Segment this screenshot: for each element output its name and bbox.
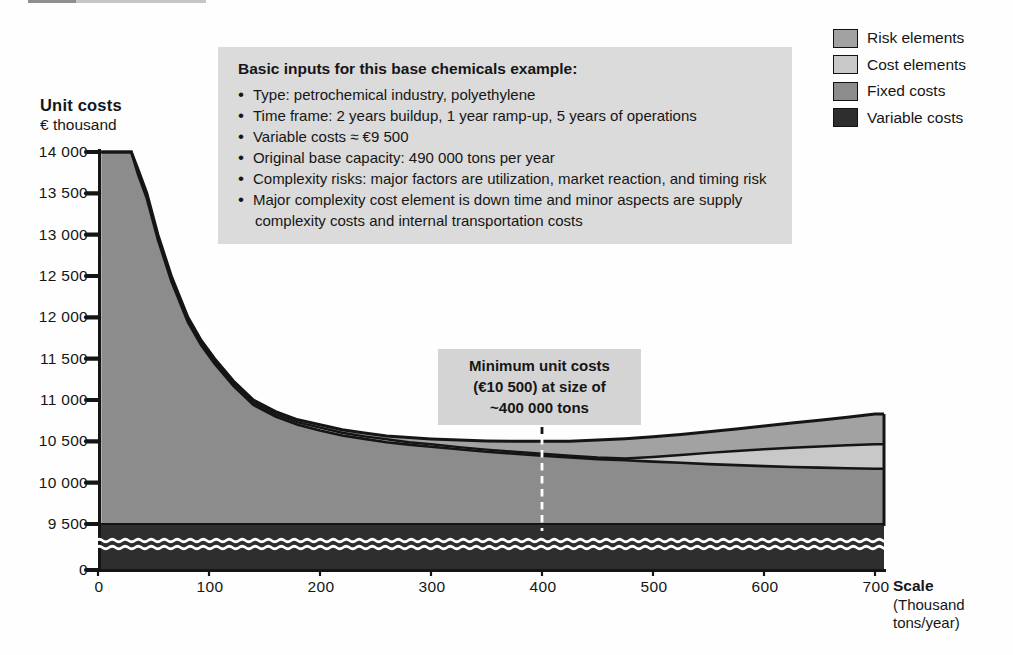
annotation-line1: Minimum unit costs: [438, 355, 641, 376]
bullet-type: Type: petrochemical industry, polyethyle…: [238, 84, 776, 105]
basic-inputs-box: Basic inputs for this base chemicals exa…: [218, 47, 792, 244]
legend-label: Fixed costs: [867, 82, 945, 100]
legend-label: Variable costs: [867, 109, 963, 127]
y-tick-label: 12 000: [36, 308, 88, 326]
y-tick-label: 9 500: [36, 515, 88, 533]
variable-costs-swatch: [833, 108, 858, 127]
y-tick-label: 10 500: [36, 432, 88, 450]
x-tick-label: 500: [632, 578, 676, 596]
x-tick-label: 0: [77, 578, 121, 596]
y-tick-label: 12 500: [36, 267, 88, 285]
legend-label: Risk elements: [867, 29, 964, 47]
legend-item-cost-elements: Cost elements: [833, 55, 966, 75]
x-tick-label: 600: [743, 578, 787, 596]
y-tick-label: 14 000: [36, 143, 88, 161]
x-tick-label: 200: [299, 578, 343, 596]
y-tick-label: 0: [36, 561, 88, 579]
annotation-line3: ~400 000 tons: [438, 397, 641, 418]
legend: Risk elements Cost elements Fixed costs …: [833, 28, 966, 134]
y-axis-title: Unit costs: [40, 96, 122, 115]
basic-inputs-list: Type: petrochemical industry, polyethyle…: [238, 84, 776, 231]
y-tick-label: 13 000: [36, 226, 88, 244]
bullet-variable-costs: Variable costs ≈ €9 500: [238, 126, 776, 147]
y-tick-label: 11 500: [36, 350, 88, 368]
x-tick-label: 700: [854, 578, 898, 596]
bullet-complexity-risks: Complexity risks: major factors are util…: [238, 168, 776, 189]
bullet-complexity-cost: Major complexity cost element is down ti…: [238, 189, 776, 231]
x-tick-label: 100: [188, 578, 232, 596]
fixed-costs-swatch: [833, 82, 858, 101]
y-tick-label: 11 000: [36, 391, 88, 409]
figure-canvas: Unit costs € thousand 14 000 13 500 13 0…: [0, 0, 1013, 655]
minimum-cost-annotation: Minimum unit costs (€10 500) at size of …: [438, 349, 641, 425]
x-tick-label: 400: [521, 578, 565, 596]
legend-item-variable-costs: Variable costs: [833, 108, 966, 128]
bullet-base-capacity: Original base capacity: 490 000 tons per…: [238, 147, 776, 168]
x-tick-label: 300: [410, 578, 454, 596]
y-tick-label: 13 500: [36, 184, 88, 202]
x-axis-units-line1: (Thousand: [893, 596, 965, 613]
basic-inputs-title: Basic inputs for this base chemicals exa…: [238, 58, 776, 79]
risk-elements-swatch: [833, 29, 858, 48]
bullet-time-frame: Time frame: 2 years buildup, 1 year ramp…: [238, 105, 776, 126]
y-tick-label: 10 000: [36, 474, 88, 492]
cost-elements-swatch: [833, 55, 858, 74]
annotation-line2: (€10 500) at size of: [438, 376, 641, 397]
x-axis-units-line2: tons/year): [893, 614, 960, 631]
legend-item-risk-elements: Risk elements: [833, 28, 966, 48]
y-axis-units: € thousand: [40, 116, 117, 134]
legend-item-fixed-costs: Fixed costs: [833, 81, 966, 101]
x-axis-title: Scale: [893, 577, 934, 595]
legend-label: Cost elements: [867, 56, 966, 74]
